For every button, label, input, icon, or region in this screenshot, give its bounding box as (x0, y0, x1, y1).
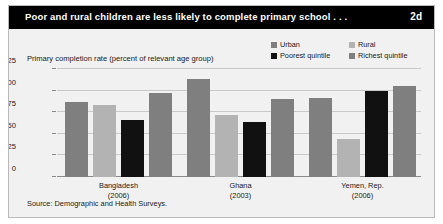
legend-item-richest-quintile: Richest quintile (349, 50, 431, 61)
legend-swatch-urban (271, 42, 277, 48)
bar-group-0 (65, 69, 172, 177)
x-category-name-0: Bangladesh (65, 181, 172, 191)
y-tick-label-75: 75 (8, 99, 16, 108)
y-tick-label-50: 50 (8, 120, 16, 129)
y-tick-mark-0 (52, 176, 56, 177)
y-tick-mark-50 (52, 133, 56, 134)
x-category-year-2: (2006) (309, 191, 416, 201)
bar-group-1 (187, 69, 294, 177)
bar-group-2 (309, 69, 416, 177)
bar-urban-2 (309, 98, 332, 177)
y-tick-mark-25 (52, 154, 56, 155)
legend-label-urban: Urban (280, 40, 300, 49)
legend-label-rural: Rural (358, 40, 375, 49)
figure-source-note: Source: Demographic and Health Surveys. (27, 199, 167, 208)
bar-poorest-quintile-0 (121, 120, 144, 177)
bar-rural-2 (337, 139, 360, 177)
legend-swatch-poorest-quintile (271, 53, 277, 59)
bar-poorest-quintile-1 (243, 122, 266, 177)
legend-label-poorest-quintile: Poorest quintile (280, 51, 330, 60)
bar-richest-quintile-2 (393, 86, 416, 177)
x-category-label-2: Yemen, Rep.(2006) (309, 181, 416, 200)
legend-item-poorest-quintile: Poorest quintile (271, 50, 349, 61)
y-tick-label-125: 125 (8, 56, 16, 65)
y-tick-mark-125 (52, 68, 56, 69)
bar-poorest-quintile-2 (365, 91, 388, 177)
bar-urban-1 (187, 79, 210, 177)
legend-label-richest-quintile: Richest quintile (358, 51, 407, 60)
x-category-label-0: Bangladesh(2006) (65, 181, 172, 200)
x-category-label-1: Ghana(2003) (187, 181, 294, 200)
y-tick-mark-75 (52, 111, 56, 112)
x-category-year-1: (2003) (187, 191, 294, 201)
chart-plot-area: 0255075100125 Bangladesh(2006)Ghana(2003… (57, 69, 421, 177)
legend-item-rural: Rural (349, 39, 431, 50)
y-tick-label-0: 0 (8, 164, 16, 173)
bar-rural-1 (215, 115, 238, 177)
figure-panel: Poor and rural children are less likely … (8, 5, 435, 218)
bar-rural-0 (93, 105, 116, 177)
figure-title: Poor and rural children are less likely … (25, 11, 347, 22)
chart-legend: Urban Rural Poorest quintile Richest qui… (271, 39, 431, 61)
bar-richest-quintile-0 (149, 93, 172, 177)
legend-item-urban: Urban (271, 39, 349, 50)
figure-number-badge: 2d (410, 11, 422, 22)
bar-richest-quintile-1 (271, 99, 294, 177)
x-category-name-2: Yemen, Rep. (309, 181, 416, 191)
legend-swatch-richest-quintile (349, 53, 355, 59)
x-category-name-1: Ghana (187, 181, 294, 191)
bar-urban-0 (65, 102, 88, 177)
legend-swatch-rural (349, 42, 355, 48)
y-tick-mark-100 (52, 90, 56, 91)
figure-title-bar: Poor and rural children are less likely … (9, 6, 434, 29)
y-tick-label-25: 25 (8, 142, 16, 151)
chart-bars (57, 69, 421, 177)
y-tick-label-100: 100 (8, 77, 16, 86)
y-axis-title: Primary completion rate (percent of rele… (27, 54, 214, 63)
